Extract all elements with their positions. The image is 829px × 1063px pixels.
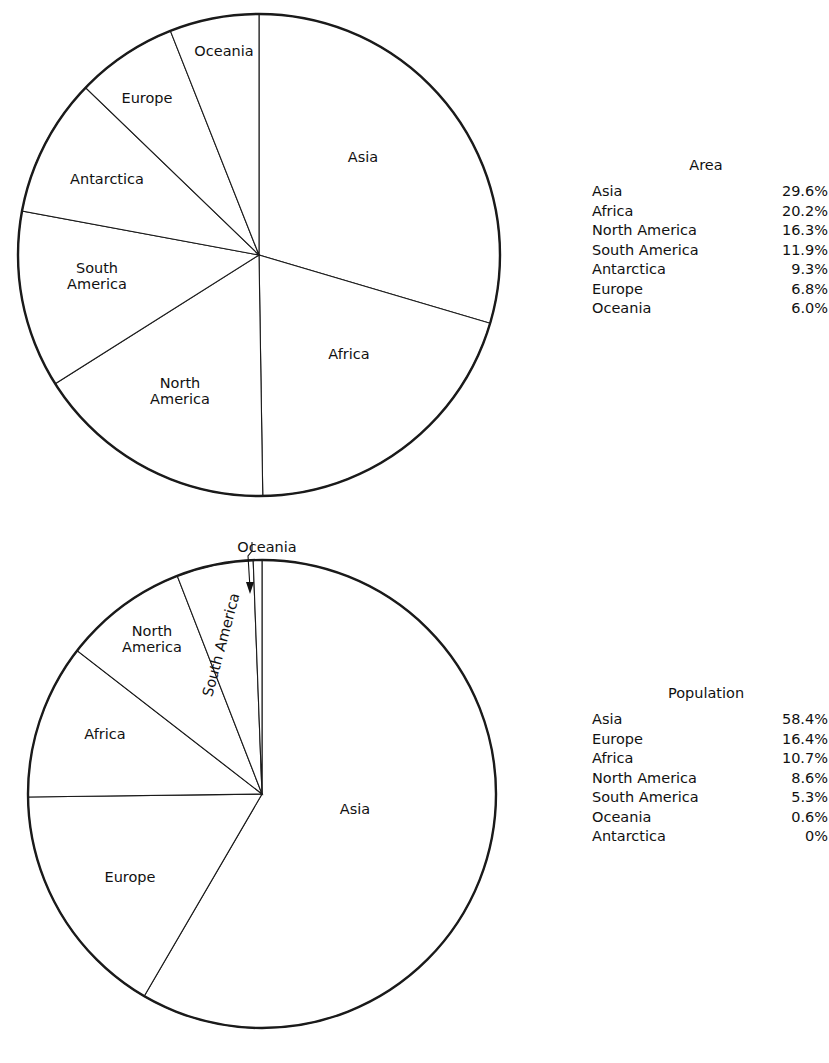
legend-area-rows: Asia29.6%Africa20.2%North America16.3%So… [592, 182, 828, 319]
legend-row: Antarctica9.3% [592, 260, 828, 280]
legend-row: Europe16.4% [592, 730, 828, 750]
legend-area: Area Asia29.6%Africa20.2%North America16… [592, 157, 828, 319]
legend-row-value: 58.4% [782, 710, 828, 730]
legend-row: Africa20.2% [592, 202, 828, 222]
legend-row-name: Europe [592, 280, 643, 300]
slice-label: Europe [105, 869, 156, 885]
slice-label: Africa [328, 346, 369, 362]
legend-row: North America16.3% [592, 221, 828, 241]
legend-row-value: 20.2% [782, 202, 828, 222]
legend-row: Africa10.7% [592, 749, 828, 769]
legend-row-name: Oceania [592, 299, 651, 319]
legend-row-value: 16.4% [782, 730, 828, 750]
legend-row: South America11.9% [592, 241, 828, 261]
legend-row-value: 6.0% [791, 299, 828, 319]
legend-row: Oceania6.0% [592, 299, 828, 319]
legend-row-value: 0.6% [791, 808, 828, 828]
legend-row-name: Antarctica [592, 260, 666, 280]
slice-label: Antarctica [70, 171, 144, 187]
legend-area-title: Area [592, 157, 828, 173]
legend-row-name: Asia [592, 710, 622, 730]
slice-label: Asia [340, 801, 370, 817]
legend-row: Oceania0.6% [592, 808, 828, 828]
legend-row: Europe6.8% [592, 280, 828, 300]
legend-row-value: 10.7% [782, 749, 828, 769]
legend-row-value: 29.6% [782, 182, 828, 202]
slice-label: Europe [122, 90, 173, 106]
legend-row-name: Asia [592, 182, 622, 202]
legend-population-rows: Asia58.4%Europe16.4%Africa10.7%North Ame… [592, 710, 828, 847]
legend-row: Asia29.6% [592, 182, 828, 202]
legend-row-name: Europe [592, 730, 643, 750]
legend-population: Population Asia58.4%Europe16.4%Africa10.… [592, 685, 828, 847]
legend-row-value: 0% [805, 827, 828, 847]
legend-row: Antarctica0% [592, 827, 828, 847]
world-continents-pie-figure: AsiaAfricaNorthAmericaSouthAmericaAntarc… [0, 0, 829, 1063]
legend-row-name: South America [592, 788, 699, 808]
legend-row-value: 8.6% [791, 769, 828, 789]
legend-row-name: North America [592, 769, 697, 789]
legend-row-name: Africa [592, 749, 633, 769]
legend-row-name: South America [592, 241, 699, 261]
pie-area: AsiaAfricaNorthAmericaSouthAmericaAntarc… [18, 14, 500, 496]
pie-population: AsiaEuropeAfricaNorthAmericaSouth Americ… [28, 539, 496, 1028]
legend-row: North America8.6% [592, 769, 828, 789]
callout-label: Oceania [237, 539, 296, 555]
legend-row-value: 9.3% [791, 260, 828, 280]
legend-row: Asia58.4% [592, 710, 828, 730]
legend-row-value: 11.9% [782, 241, 828, 261]
legend-row-name: Antarctica [592, 827, 666, 847]
legend-row-value: 6.8% [791, 280, 828, 300]
legend-row-value: 16.3% [782, 221, 828, 241]
slice-label: Oceania [194, 43, 253, 59]
legend-row-name: Africa [592, 202, 633, 222]
legend-row-value: 5.3% [791, 788, 828, 808]
legend-row-name: North America [592, 221, 697, 241]
legend-row-name: Oceania [592, 808, 651, 828]
slice-label: Africa [84, 726, 125, 742]
slice-label: SouthAmerica [67, 260, 127, 293]
legend-row: South America5.3% [592, 788, 828, 808]
slice-label: Asia [348, 149, 378, 165]
legend-population-title: Population [592, 685, 828, 701]
